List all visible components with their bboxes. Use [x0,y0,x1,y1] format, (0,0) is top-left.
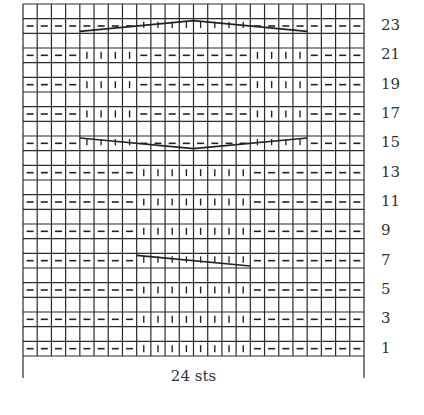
chart-grid [23,4,364,356]
row-label: 23 [381,18,400,33]
row-label: 9 [381,223,391,238]
row-label: 1 [381,341,391,356]
row-label: 3 [381,311,391,326]
row-label: 19 [381,77,400,92]
row-label: 15 [381,135,400,150]
row-label: 17 [381,106,400,121]
stitch-count-label: 24 sts [23,367,364,385]
row-label: 7 [381,253,391,268]
row-label: 5 [381,282,391,297]
row-label: 21 [381,47,400,62]
row-label: 11 [381,194,400,209]
row-label: 13 [381,165,400,180]
knitting-chart [0,0,424,415]
